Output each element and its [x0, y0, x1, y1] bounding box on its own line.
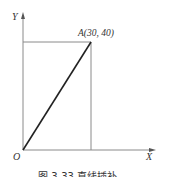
- x-axis-label: X: [145, 151, 153, 162]
- point-a-label: A(30, 40): [77, 28, 114, 39]
- interpolation-diagram: Y X O A(30, 40) 图 3-33 直线插补: [0, 0, 169, 177]
- interpolation-line: [23, 42, 91, 150]
- figure-caption: 图 3-33 直线插补: [38, 170, 117, 177]
- y-axis-label: Y: [12, 11, 19, 22]
- y-axis-arrow-icon: [21, 12, 25, 19]
- origin-label: O: [13, 151, 20, 162]
